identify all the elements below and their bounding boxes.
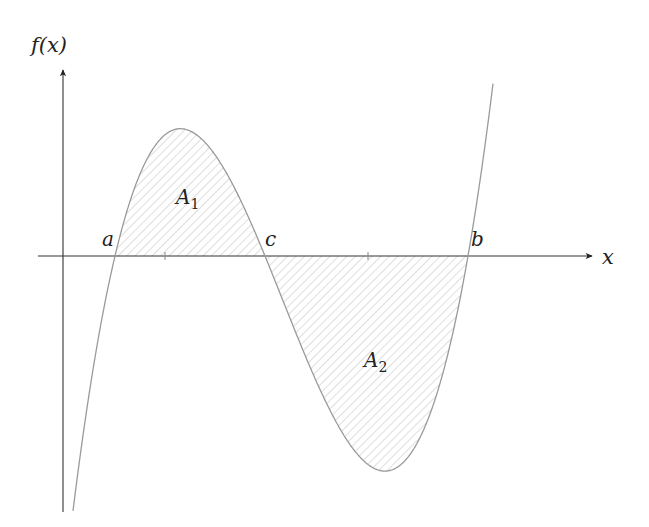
function-plot: f(x) x a c b A1 A2 [0,0,649,527]
point-a-label: a [102,227,114,251]
point-b-label: b [471,227,484,251]
x-axis-label: x [602,245,614,269]
y-axis-label: f(x) [29,33,67,57]
point-c-label: c [265,227,276,251]
